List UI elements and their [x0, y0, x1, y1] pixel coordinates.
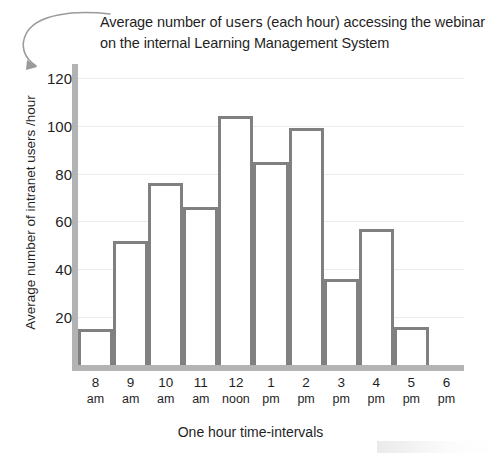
bar-5-pm — [394, 327, 429, 365]
x-tick-number: 10 — [158, 375, 173, 390]
x-tick-number: 1 — [267, 375, 275, 390]
x-tick-number: 3 — [337, 375, 345, 390]
x-tick-number: 4 — [373, 375, 381, 390]
scan-artifact — [377, 441, 497, 453]
x-axis-line — [72, 365, 464, 371]
chart-title-part-1: Average number of — [100, 14, 225, 30]
x-tick-number: 6 — [443, 375, 451, 390]
y-tick-label-80: 80 — [34, 165, 72, 182]
y-axis-title: Average number of intranet users /hour — [23, 63, 38, 363]
bar-3-pm — [324, 279, 359, 365]
bar-8-am — [78, 329, 113, 365]
x-tick-number: 8 — [92, 375, 100, 390]
x-tick-number: 5 — [408, 375, 416, 390]
bars-container — [78, 66, 464, 365]
x-axis-title: One hour time-intervals — [0, 424, 501, 440]
bar-9-am — [113, 241, 148, 365]
y-tick-label-100: 100 — [34, 117, 72, 134]
y-tick-label-60: 60 — [34, 213, 72, 230]
x-tick-number: 2 — [302, 375, 310, 390]
y-tick-label-120: 120 — [34, 69, 72, 86]
bar-4-pm — [359, 229, 394, 365]
bar-11-am — [183, 207, 218, 365]
x-tick-number: 11 — [194, 375, 208, 390]
bar-2-pm — [289, 128, 324, 365]
y-tick-label-40: 40 — [34, 261, 72, 278]
y-axis-line — [72, 64, 78, 371]
chart-title: Average number of users (each hour) acce… — [100, 12, 492, 54]
x-axis-ticks: 8am9am10am11am12noon1pm2pm3pm4pm5pm6pm — [78, 374, 464, 416]
bar-1-pm — [253, 162, 288, 365]
x-tick-number: 9 — [127, 375, 135, 390]
chart-title-emphasis: users — [225, 14, 262, 30]
y-tick-label-20: 20 — [34, 309, 72, 326]
bar-12-noon — [218, 116, 253, 365]
x-tick-unit: pm — [423, 391, 469, 408]
x-tick-label-6-pm: 6pm — [423, 374, 469, 408]
x-tick-number: 12 — [228, 375, 243, 390]
bar-10-am — [148, 183, 183, 365]
